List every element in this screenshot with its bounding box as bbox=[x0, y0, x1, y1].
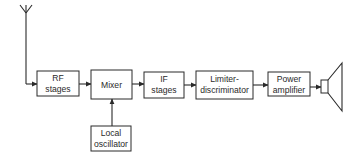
power-amp-label-line2: amplifier bbox=[273, 85, 306, 95]
limiter-label-line2: discriminator bbox=[200, 85, 249, 95]
rf-stages-block: RF stages bbox=[37, 71, 79, 96]
if-stages-label-line2: stages bbox=[151, 85, 176, 95]
loudspeaker-icon bbox=[321, 63, 342, 111]
mixer-label: Mixer bbox=[101, 80, 122, 90]
rf-stages-label-line1: RF bbox=[52, 73, 63, 83]
if-stages-block: IF stages bbox=[144, 72, 184, 98]
local-oscillator-block: Local oscillator bbox=[91, 126, 131, 151]
limiter-discriminator-block: Limiter- discriminator bbox=[196, 71, 253, 99]
power-amp-label-line1: Power bbox=[277, 74, 301, 84]
if-stages-label-line1: IF bbox=[160, 74, 168, 84]
limiter-label-line1: Limiter- bbox=[210, 74, 239, 84]
local-oscillator-label-line2: oscillator bbox=[94, 139, 128, 149]
antenna-icon bbox=[20, 5, 32, 84]
receiver-block-diagram: RF stages Mixer Local oscillator IF stag… bbox=[0, 0, 360, 167]
local-oscillator-label-line1: Local bbox=[101, 128, 122, 138]
rf-stages-label-line2: stages bbox=[45, 84, 70, 94]
mixer-block: Mixer bbox=[91, 70, 132, 99]
power-amplifier-block: Power amplifier bbox=[268, 72, 310, 96]
